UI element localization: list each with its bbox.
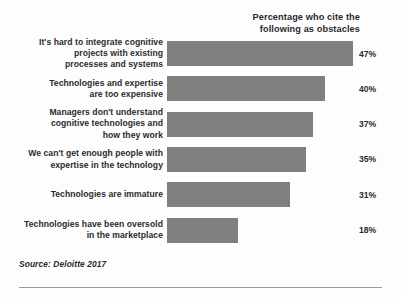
bar-category-label-line: how they work bbox=[11, 130, 163, 141]
caption-line-1: Percentage who cite the bbox=[160, 11, 360, 23]
bar-category-label-line: are too expensive bbox=[11, 89, 163, 100]
bottom-divider bbox=[19, 287, 382, 288]
bar-row: Technologies are immature31% bbox=[0, 182, 401, 207]
bar-value-label: 47% bbox=[359, 49, 376, 59]
bar-value-label: 18% bbox=[359, 225, 376, 235]
bar-value-label: 40% bbox=[359, 84, 376, 94]
bar-category-label-line: processes and systems bbox=[11, 59, 163, 70]
bar-value-label: 35% bbox=[359, 154, 376, 164]
bar bbox=[167, 76, 325, 101]
bar bbox=[167, 112, 313, 137]
bar-category-label-line: Technologies have been oversold bbox=[11, 219, 163, 230]
bar bbox=[167, 182, 290, 207]
bar-row: We can't get enough people withexpertise… bbox=[0, 147, 401, 172]
bar-value-label: 37% bbox=[359, 119, 376, 129]
bar-category-label-line: projects with existing bbox=[11, 48, 163, 59]
bar-row: It's hard to integrate cognitiveprojects… bbox=[0, 41, 401, 66]
bar-value-label: 31% bbox=[359, 190, 376, 200]
bar-row: Managers don't understandcognitive techn… bbox=[0, 112, 401, 137]
bar-category-label-line: It's hard to integrate cognitive bbox=[11, 37, 163, 48]
bar-category-label: Technologies have been oversoldin the ma… bbox=[11, 219, 163, 241]
chart-figure: Percentage who cite the following as obs… bbox=[0, 0, 401, 298]
bar-row: Technologies have been oversoldin the ma… bbox=[0, 218, 401, 243]
bar-category-label: Technologies and expertiseare too expens… bbox=[11, 78, 163, 100]
bar-category-label: Managers don't understandcognitive techn… bbox=[11, 107, 163, 141]
bar-category-label: Technologies are immature bbox=[11, 189, 163, 200]
bar-chart-plot-area: It's hard to integrate cognitiveprojects… bbox=[0, 41, 401, 253]
bar-category-label-line: We can't get enough people with bbox=[11, 148, 163, 159]
bar bbox=[167, 41, 353, 66]
bar-category-label-line: Managers don't understand bbox=[11, 107, 163, 118]
caption-line-2: following as obstacles bbox=[160, 23, 360, 35]
chart-caption: Percentage who cite the following as obs… bbox=[160, 11, 360, 36]
bar-category-label: We can't get enough people withexpertise… bbox=[11, 148, 163, 170]
bar-category-label-line: expertise in the technology bbox=[11, 159, 163, 170]
bar bbox=[167, 147, 306, 172]
bar-category-label-line: Technologies and expertise bbox=[11, 78, 163, 89]
bar-category-label: It's hard to integrate cognitiveprojects… bbox=[11, 37, 163, 71]
bar-category-label-line: cognitive technologies and bbox=[11, 118, 163, 129]
bar-category-label-line: Technologies are immature bbox=[11, 189, 163, 200]
bar bbox=[167, 218, 238, 243]
bar-category-label-line: in the marketplace bbox=[11, 230, 163, 241]
bar-row: Technologies and expertiseare too expens… bbox=[0, 76, 401, 101]
source-note: Source: Deloitte 2017 bbox=[19, 259, 106, 269]
